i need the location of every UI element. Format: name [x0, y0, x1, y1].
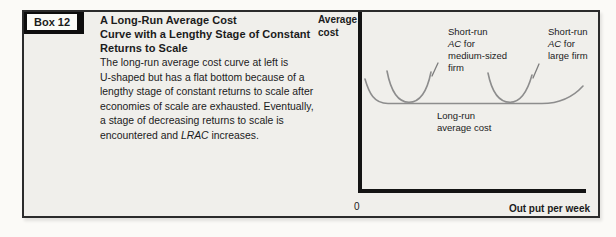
- figure-border: [22, 10, 600, 218]
- figure-box: Box 12 A Long-Run Average Cost Curve wit…: [22, 10, 600, 218]
- textbook-figure-scan: Box 12 A Long-Run Average Cost Curve wit…: [0, 0, 616, 237]
